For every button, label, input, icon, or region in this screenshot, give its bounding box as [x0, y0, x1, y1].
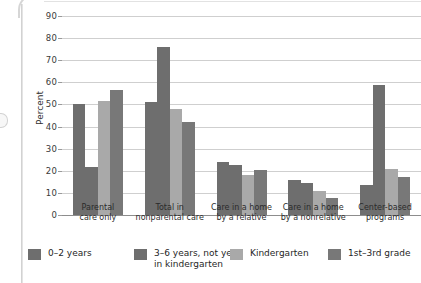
- y-tick-mark-20: [58, 171, 62, 172]
- bar-g1-s2: [170, 109, 183, 215]
- y-tick-label-50: 50: [31, 99, 57, 109]
- x-category-label-2: Care in a home by a relative: [206, 203, 278, 222]
- bar-series-layer: [62, 16, 421, 215]
- x-category-label-3: Care in a home by a nonrelative: [277, 203, 349, 222]
- y-tick-label-30: 30: [31, 144, 57, 154]
- bar-g0-s3: [110, 90, 123, 215]
- legend-label-2: Kindergarten: [250, 248, 309, 259]
- y-tick-mark-40: [58, 127, 62, 128]
- y-tick-label-60: 60: [31, 77, 57, 87]
- legend-label-1: 3–6 years, not yet in kindergarten: [154, 248, 235, 270]
- y-tick-mark-90: [58, 16, 62, 17]
- plot-area: 0102030405060708090: [62, 16, 421, 215]
- bar-g0-s2: [98, 101, 111, 215]
- y-tick-label-10: 10: [31, 188, 57, 198]
- bar-chart: Percent 0102030405060708090 Parental car…: [0, 0, 421, 283]
- y-tick-mark-30: [58, 149, 62, 150]
- bar-g4-s1: [373, 85, 386, 215]
- legend-label-0: 0–2 years: [48, 248, 92, 259]
- x-category-label-0: Parental care only: [62, 203, 134, 222]
- legend-item-0[interactable]: 0–2 years: [28, 248, 92, 260]
- y-tick-label-0: 0: [31, 210, 57, 220]
- x-category-label-1: Total in nonparental care: [134, 203, 206, 222]
- legend-item-1[interactable]: 3–6 years, not yet in kindergarten: [134, 248, 235, 270]
- y-tick-mark-60: [58, 82, 62, 83]
- y-tick-label-40: 40: [31, 122, 57, 132]
- legend-item-3[interactable]: 1st–3rd grade: [328, 248, 410, 260]
- y-tick-mark-70: [58, 60, 62, 61]
- bar-g1-s0: [145, 102, 158, 215]
- y-tick-label-90: 90: [31, 11, 57, 21]
- y-tick-mark-10: [58, 193, 62, 194]
- y-tick-label-80: 80: [31, 33, 57, 43]
- legend: 0–2 years3–6 years, not yet in kindergar…: [28, 248, 418, 280]
- y-tick-mark-50: [58, 104, 62, 105]
- legend-swatch-0: [28, 249, 41, 260]
- legend-label-3: 1st–3rd grade: [348, 248, 410, 259]
- bar-g1-s1: [157, 47, 170, 215]
- legend-swatch-3: [328, 249, 341, 260]
- bar-g0-s0: [73, 104, 86, 215]
- y-tick-label-20: 20: [31, 166, 57, 176]
- y-tick-mark-80: [58, 38, 62, 39]
- bar-g1-s3: [182, 122, 195, 215]
- x-category-label-4: Center-based programs: [349, 203, 421, 222]
- legend-swatch-1: [134, 249, 147, 260]
- legend-item-2[interactable]: Kindergarten: [230, 248, 309, 260]
- y-tick-label-70: 70: [31, 55, 57, 65]
- legend-swatch-2: [230, 249, 243, 260]
